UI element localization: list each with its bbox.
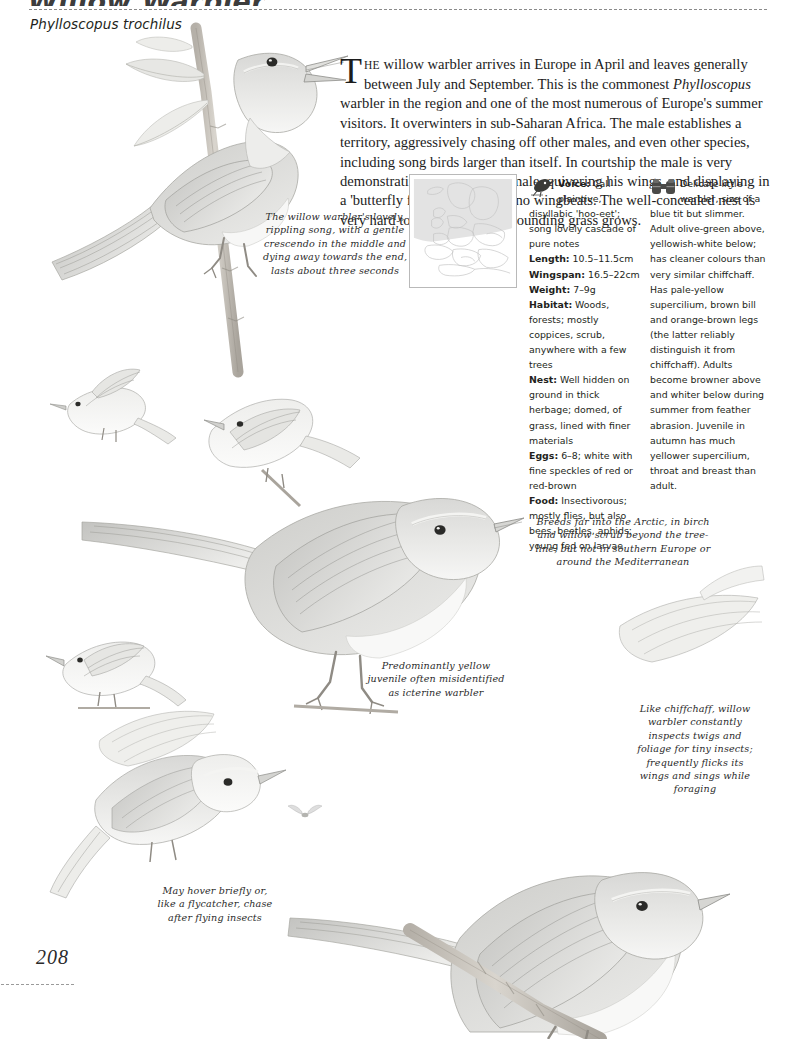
page-number: 208	[36, 946, 69, 969]
fact-length-value: 10.5–11.5cm	[570, 253, 634, 264]
fact-food-label: Food:	[529, 495, 558, 506]
fact-length-label: Length:	[529, 253, 570, 264]
facts-column: Voice: Call plaintive, disyllabic 'hoo-e…	[529, 176, 641, 553]
fact-wingspan-value: 16.5–22cm	[585, 269, 640, 280]
header-dotted-rule	[28, 8, 768, 11]
page-title: Willow Warbler	[28, 0, 265, 6]
intro-smallcaps: HE	[364, 59, 380, 71]
footer-dotted-rule	[0, 983, 76, 986]
warbler-wing-detail-upper-right	[619, 566, 764, 662]
description-text: Delicate little warbler, size of a blue …	[650, 178, 766, 491]
fact-weight-value: 7–9g	[570, 284, 596, 295]
warbler-small-perched-pair	[204, 399, 360, 506]
field-guide-page: Willow Warbler Phylloscopus trochilus TH…	[0, 0, 792, 1039]
fact-wingspan-label: Wingspan:	[529, 269, 585, 280]
fact-eggs-label: Eggs:	[529, 450, 558, 461]
singing-bird-icon	[529, 176, 555, 198]
caption-arctic-breeding: Breeds far into the Arctic, in birch and…	[532, 515, 714, 569]
distribution-map	[409, 174, 517, 288]
warbler-hovering-left	[50, 711, 286, 898]
caption-juvenile: Predominantly yellow juvenile often misi…	[366, 659, 506, 699]
fact-weight-label: Weight:	[529, 284, 570, 295]
caption-song: The willow warbler's lovely, rippling so…	[256, 210, 414, 277]
warbler-juvenile-small-left	[46, 642, 186, 708]
fact-nest-label: Nest:	[529, 374, 557, 385]
caption-hovering: May hover briefly or, like a flycatcher,…	[156, 884, 274, 924]
fact-habitat-label: Habitat:	[529, 299, 572, 310]
description-column: Delicate little warbler, size of a blue …	[650, 176, 772, 493]
warbler-perched-large-bottom-right	[288, 873, 730, 1039]
warbler-small-flying-left	[50, 369, 176, 444]
insect-small	[288, 805, 322, 817]
intro-genus-italic: Phylloscopus	[673, 76, 751, 92]
warbler-perched-on-willow-branch-main	[52, 28, 348, 372]
caption-chiffchaff-foraging: Like chiffchaff, willow warbler constant…	[634, 702, 756, 796]
drop-cap: T	[340, 56, 364, 86]
scientific-name: Phylloscopus trochilus	[30, 16, 182, 32]
binoculars-icon	[650, 176, 677, 198]
fact-voice-label: Voice:	[558, 178, 590, 189]
